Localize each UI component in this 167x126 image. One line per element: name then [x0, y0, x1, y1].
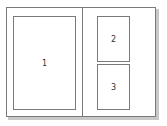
- layout-diagram: 1 2 3: [0, 0, 167, 126]
- panel-label: 3: [111, 83, 116, 92]
- panel-3: 3: [97, 64, 130, 110]
- panel-2: 2: [97, 16, 130, 62]
- panel-1: 1: [13, 16, 76, 110]
- panel-label: 1: [42, 59, 47, 68]
- panel-label: 2: [111, 35, 116, 44]
- column-divider: [82, 7, 83, 117]
